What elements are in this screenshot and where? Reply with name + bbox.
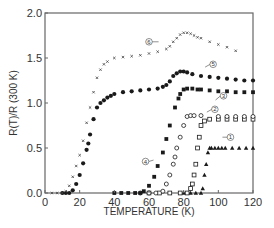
filled-square-marker	[152, 175, 156, 179]
open-circle-marker	[182, 124, 186, 128]
filled-square-marker	[177, 97, 181, 101]
open-circle-marker	[251, 115, 255, 119]
cross-marker	[85, 122, 87, 124]
label-leader	[149, 160, 154, 161]
filled-circle-marker	[67, 191, 71, 195]
series-3	[138, 114, 255, 195]
filled-square-marker	[156, 164, 160, 168]
series-6	[51, 32, 237, 195]
triangle-marker	[202, 173, 206, 177]
cross-marker	[172, 41, 174, 43]
open-circle-marker	[175, 146, 179, 150]
data-series	[51, 32, 255, 195]
open-square-marker	[196, 146, 200, 150]
cross-marker	[179, 33, 181, 35]
cross-marker	[189, 33, 191, 35]
filled-square-marker	[242, 90, 246, 94]
filled-circle-marker	[88, 132, 92, 136]
cross-marker	[176, 37, 178, 39]
open-square-marker	[197, 135, 201, 139]
filled-square-marker	[234, 90, 238, 94]
cross-marker	[113, 57, 115, 59]
open-circle-marker	[216, 115, 220, 119]
triangle-marker	[244, 146, 248, 150]
open-square-marker	[185, 191, 189, 195]
filled-circle-marker	[190, 72, 194, 76]
x-tick-label: 100	[209, 196, 227, 208]
cross-marker	[148, 52, 150, 54]
cross-marker	[99, 69, 101, 71]
filled-square-marker	[147, 184, 151, 188]
filled-circle-marker	[121, 90, 125, 94]
filled-square-marker	[173, 106, 177, 110]
y-tick-label: 1.0	[27, 97, 42, 109]
filled-circle-marker	[85, 148, 89, 152]
filled-circle-marker	[78, 173, 82, 177]
cross-marker	[130, 55, 132, 57]
cross-marker	[96, 77, 98, 79]
y-tick-label: 1.5	[27, 52, 42, 64]
filled-square-marker	[164, 137, 168, 141]
open-circle-marker	[192, 114, 196, 118]
triangle-marker	[206, 150, 210, 154]
filled-circle-marker	[216, 76, 220, 80]
open-square-marker	[178, 191, 182, 195]
filled-circle-marker	[71, 188, 75, 192]
filled-circle-marker	[147, 87, 151, 91]
cross-marker	[234, 50, 236, 52]
filled-circle-marker	[171, 74, 175, 78]
open-circle-marker	[242, 115, 246, 119]
series-2	[147, 117, 255, 195]
filled-square-marker	[185, 87, 189, 91]
filled-square-marker	[142, 189, 146, 193]
filled-square-marker	[190, 87, 194, 91]
filled-circle-marker	[199, 74, 203, 78]
cross-marker	[196, 36, 198, 38]
filled-circle-marker	[130, 89, 134, 93]
x-tick-label: 120	[244, 196, 262, 208]
triangle-marker	[216, 146, 220, 150]
filled-square-marker	[196, 88, 200, 92]
open-square-marker	[190, 182, 194, 186]
cross-marker	[92, 91, 94, 93]
open-circle-marker	[171, 162, 175, 166]
filled-circle-marker	[234, 78, 238, 82]
cross-marker	[122, 56, 124, 58]
y-axis-title: R(T)/R (300 K)	[8, 70, 19, 136]
filled-circle-marker	[81, 161, 85, 165]
triangle-marker	[223, 146, 227, 150]
cross-marker	[75, 165, 77, 167]
filled-circle-marker	[74, 182, 78, 186]
axis-ticks: 0204060801001200.00.51.01.52.0	[27, 7, 262, 208]
filled-square-marker	[133, 191, 137, 195]
filled-square-marker	[178, 92, 182, 96]
triangle-marker	[230, 146, 234, 150]
cross-marker	[186, 32, 188, 34]
label-leader	[207, 109, 212, 112]
filled-square-marker	[225, 89, 229, 93]
filled-square-marker	[168, 124, 172, 128]
cross-marker	[200, 37, 202, 39]
filled-square-marker	[161, 151, 165, 155]
x-axis-title: TEMPERATURE (K)	[104, 206, 195, 217]
open-square-marker	[203, 119, 207, 123]
open-circle-marker	[234, 115, 238, 119]
filled-circle-marker	[91, 117, 95, 121]
cross-marker	[106, 60, 108, 62]
cross-marker	[103, 63, 105, 65]
cross-marker	[165, 48, 167, 50]
filled-square-marker	[251, 90, 255, 94]
cross-marker	[89, 106, 91, 108]
filled-circle-marker	[98, 101, 102, 105]
open-circle-marker	[154, 191, 158, 195]
filled-square-marker	[208, 89, 212, 93]
open-square-marker	[168, 191, 172, 195]
x-tick-label: 0	[42, 196, 48, 208]
open-square-marker	[192, 173, 196, 177]
filled-square-marker	[182, 88, 186, 92]
open-circle-marker	[199, 114, 203, 118]
label-leader	[205, 64, 210, 67]
cross-marker	[193, 34, 195, 36]
open-circle-marker	[164, 182, 168, 186]
open-circle-marker	[225, 115, 229, 119]
